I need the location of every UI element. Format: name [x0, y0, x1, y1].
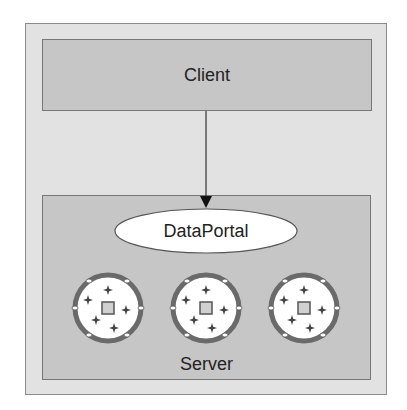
business-object-icon [170, 275, 242, 341]
arrow-head-icon [200, 196, 212, 208]
business-object-icon [72, 275, 144, 341]
dataportal-label: DataPortal [115, 209, 297, 253]
business-object-icon [268, 275, 340, 341]
diagram-graphics [0, 0, 407, 410]
